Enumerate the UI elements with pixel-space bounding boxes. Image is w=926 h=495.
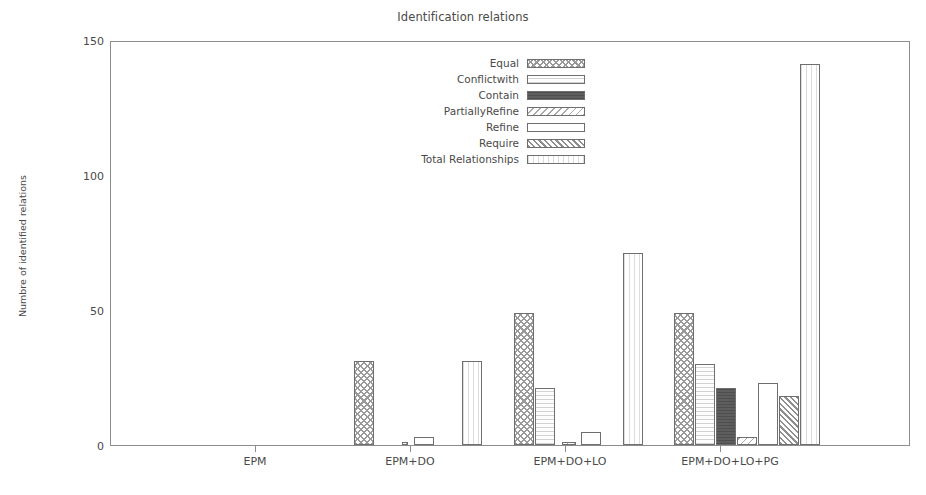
x-tick-label-epm: EPM [243, 455, 266, 468]
bar-epm-do-lo-pg-refine [758, 383, 778, 445]
chart-title: Identification relations [0, 10, 926, 24]
legend-label-partiallyrefine: PartiallyRefine [444, 105, 527, 117]
x-tick-label-epm-do-lo-pg: EPM+DO+LO+PG [681, 455, 778, 468]
legend-label-refine: Refine [486, 121, 527, 133]
x-tick-mark-epm-do-lo-pg [720, 446, 721, 452]
legend-item-equal: Equal [385, 55, 585, 71]
bar-epm-do-lo-pg-contain [716, 388, 736, 445]
bar-epm-do-total [462, 361, 482, 445]
legend-swatch-contain-icon [527, 91, 585, 100]
legend-item-require: Require [385, 135, 585, 151]
legend-swatch-partiallyrefine-icon [527, 107, 585, 116]
bar-epm-do-partiallyrefine [402, 442, 408, 445]
legend-item-contain: Contain [385, 87, 585, 103]
y-axis-label: Numbre of identified relations [17, 175, 28, 317]
bar-epm-do-equal [354, 361, 374, 445]
chart-legend: Equal Conflictwith Contain PartiallyRefi… [385, 55, 585, 167]
bar-epm-do-lo-pg-partiallyrefine [737, 437, 757, 445]
bar-epm-do-refine [414, 437, 434, 445]
legend-label-equal: Equal [490, 57, 527, 69]
chart-figure: Identification relations Numbre of ident… [0, 0, 926, 495]
legend-item-conflictwith: Conflictwith [385, 71, 585, 87]
legend-swatch-conflictwith-icon [527, 75, 585, 84]
x-tick-label-epm-do: EPM+DO [385, 455, 434, 468]
y-tick-label-0: 0 [44, 440, 104, 453]
bar-epm-do-lo-refine [581, 432, 601, 446]
legend-label-conflictwith: Conflictwith [457, 73, 527, 85]
y-tick-label-150: 150 [44, 35, 104, 48]
legend-item-partiallyrefine: PartiallyRefine [385, 103, 585, 119]
x-tick-label-epm-do-lo: EPM+DO+LO [533, 455, 606, 468]
legend-swatch-require-icon [527, 139, 585, 148]
legend-label-contain: Contain [478, 89, 527, 101]
bar-epm-do-lo-pg-equal [674, 313, 694, 445]
y-tick-label-100: 100 [44, 170, 104, 183]
legend-label-require: Require [479, 137, 527, 149]
legend-swatch-refine-icon [527, 123, 585, 132]
bar-epm-do-lo-partiallyrefine [562, 442, 576, 445]
legend-item-total-relationships: Total Relationships [385, 151, 585, 167]
bar-epm-do-lo-conflictwith [535, 388, 555, 445]
legend-label-total-relationships: Total Relationships [421, 153, 527, 165]
bar-epm-do-lo-equal [514, 313, 534, 445]
x-tick-mark-epm-do-lo [565, 446, 566, 452]
x-tick-mark-epm [255, 446, 256, 452]
x-tick-mark-epm-do [410, 446, 411, 452]
legend-swatch-total-relationships-icon [527, 155, 585, 164]
bar-epm-do-lo-pg-require [779, 396, 799, 445]
bar-epm-do-lo-pg-total [800, 64, 820, 445]
bar-epm-do-lo-total [623, 253, 643, 445]
y-tick-label-50: 50 [44, 305, 104, 318]
legend-item-refine: Refine [385, 119, 585, 135]
bar-epm-do-lo-pg-conflictwith [695, 364, 715, 445]
legend-swatch-equal-icon [527, 59, 585, 68]
